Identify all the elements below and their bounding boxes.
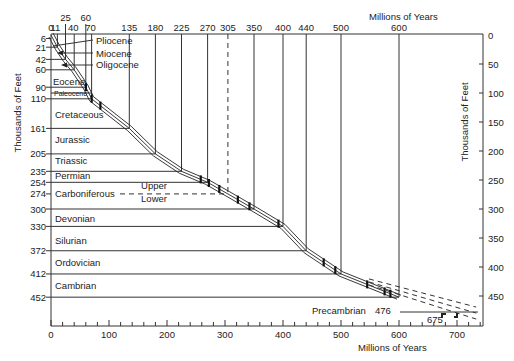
thickness-curve <box>49 33 476 319</box>
left-axis-tick-label: 60 <box>35 64 46 75</box>
right-axis-tick-label: 0 <box>488 30 493 41</box>
left-axis-tick-label: 235 <box>30 166 46 177</box>
sample-marker <box>237 196 239 204</box>
top-axis-tick-label: 225 <box>174 22 190 33</box>
bottom-axis-tick-label: 0 <box>48 329 53 340</box>
top-axis-tick-label: 70 <box>85 22 96 33</box>
geologic-time-chart: Millions of Years Millions of Years Thou… <box>0 0 514 361</box>
sample-marker <box>200 175 202 183</box>
bottom-axis-tick-label: 700 <box>449 329 465 340</box>
left-axis-tick-label: 161 <box>30 123 46 134</box>
right-axis-tick-label: 250 <box>488 175 504 186</box>
bottom-axis-tick-label: 100 <box>101 329 117 340</box>
left-axis-tick-label: 372 <box>30 245 46 256</box>
oligocene-arrow-icon <box>61 63 67 68</box>
period-label-carboniferous: Carboniferous <box>55 188 115 199</box>
right-axis-tick-label: 200 <box>488 146 504 157</box>
period-label-ordovician: Ordovician <box>55 257 100 268</box>
top-axis-tick-label: 400 <box>275 22 291 33</box>
left-axis-tick-label: 90 <box>35 82 46 93</box>
right-axis-tick-label: 50 <box>488 59 499 70</box>
subdivision-label-lower: Lower <box>141 193 167 204</box>
sample-marker <box>218 185 220 193</box>
top-axis-tick-label: 135 <box>121 22 137 33</box>
top-axis-tick-label: 25 <box>60 12 71 23</box>
period-label-pliocene: Pliocene <box>96 35 132 46</box>
sample-marker <box>334 266 336 274</box>
precambrian-depth-label: 476 <box>375 305 391 316</box>
bottom-axis-title: Millions of Years <box>358 342 427 353</box>
left-axis-tick-label: 452 <box>30 292 46 303</box>
right-axis-title: Thousands of Feet <box>459 82 470 162</box>
left-axis-tick-label: 300 <box>30 204 46 215</box>
left-axis-tick-label: 254 <box>30 177 46 188</box>
period-label-triassic: Triassic <box>55 155 88 166</box>
left-axis-tick-label: 205 <box>30 148 46 159</box>
bottom-axis-tick-label: 400 <box>275 329 291 340</box>
left-axis-tick-label: 110 <box>31 93 46 104</box>
right-axis-tick-label: 400 <box>488 262 504 273</box>
sample-marker <box>248 202 250 210</box>
period-label-eocene: Eocene <box>53 76 85 87</box>
right-axis-tick-label: 100 <box>488 88 504 99</box>
sample-marker <box>208 179 210 187</box>
top-axis-title: Millions of Years <box>369 11 438 22</box>
left-axis-tick-label: 412 <box>30 268 46 279</box>
left-axis-title: Thousands of Feet <box>12 73 23 153</box>
period-label-silurian: Silurian <box>55 235 87 246</box>
top-axis-tick-label: 305 <box>220 22 236 33</box>
period-label-oligocene: Oligocene <box>96 59 139 70</box>
top-axis-tick-label: 600 <box>391 22 407 33</box>
precambrian-age-label: 675 <box>427 314 443 325</box>
top-axis-tick-label: 40 <box>68 22 79 33</box>
sample-marker <box>277 220 279 228</box>
top-axis-tick-label: 180 <box>147 22 163 33</box>
period-label-miocene: Miocene <box>96 48 132 59</box>
sample-marker <box>323 258 325 266</box>
top-axis-tick-label: 270 <box>200 22 216 33</box>
precambrian-marker <box>443 313 446 315</box>
right-axis-tick-label: 450 <box>488 291 504 302</box>
precambrian-marker <box>441 313 443 318</box>
top-axis-tick-label: 11 <box>50 22 60 33</box>
sample-marker <box>366 280 368 288</box>
right-axis-tick-label: 150 <box>488 117 504 128</box>
period-label-jurassic: Jurassic <box>55 134 90 145</box>
pliocene-pointer-line <box>53 40 93 46</box>
thickness-curve-line <box>51 35 399 297</box>
top-axis-tick-label: 440 <box>298 22 314 33</box>
bottom-axis-tick-label: 300 <box>217 329 233 340</box>
precambrian-marker <box>454 316 457 318</box>
period-label-cambrian: Cambrian <box>55 280 96 291</box>
right-axis-tick-label: 350 <box>488 233 504 244</box>
sample-marker <box>91 95 93 103</box>
left-axis-tick-label: 42 <box>35 54 46 65</box>
period-label-precambrian: Precambrian <box>312 305 366 316</box>
period-label-permian: Permian <box>55 170 90 181</box>
top-axis-tick-label: 500 <box>333 22 349 33</box>
sample-marker <box>389 290 391 298</box>
left-axis-tick-label: 21 <box>35 42 46 53</box>
sample-marker <box>384 287 386 295</box>
boundary-lines <box>51 34 399 297</box>
period-label-cretaceous: Cretaceous <box>55 109 104 120</box>
thickness-curve-line <box>53 33 401 295</box>
left-axis-tick-label: 330 <box>30 221 46 232</box>
bottom-axis-tick-label: 600 <box>391 329 407 340</box>
left-axis-tick-label: 274 <box>30 188 46 199</box>
period-label-devonian: Devonian <box>55 213 95 224</box>
bottom-axis-tick-label: 500 <box>333 329 349 340</box>
subdivision-label-upper: Upper <box>141 180 167 191</box>
top-axis-tick-label: 60 <box>81 12 92 23</box>
top-axis-tick-label: 350 <box>246 22 262 33</box>
right-axis-tick-label: 300 <box>488 204 504 215</box>
thickness-curve-line <box>49 37 397 299</box>
bottom-axis-tick-label: 200 <box>159 329 175 340</box>
